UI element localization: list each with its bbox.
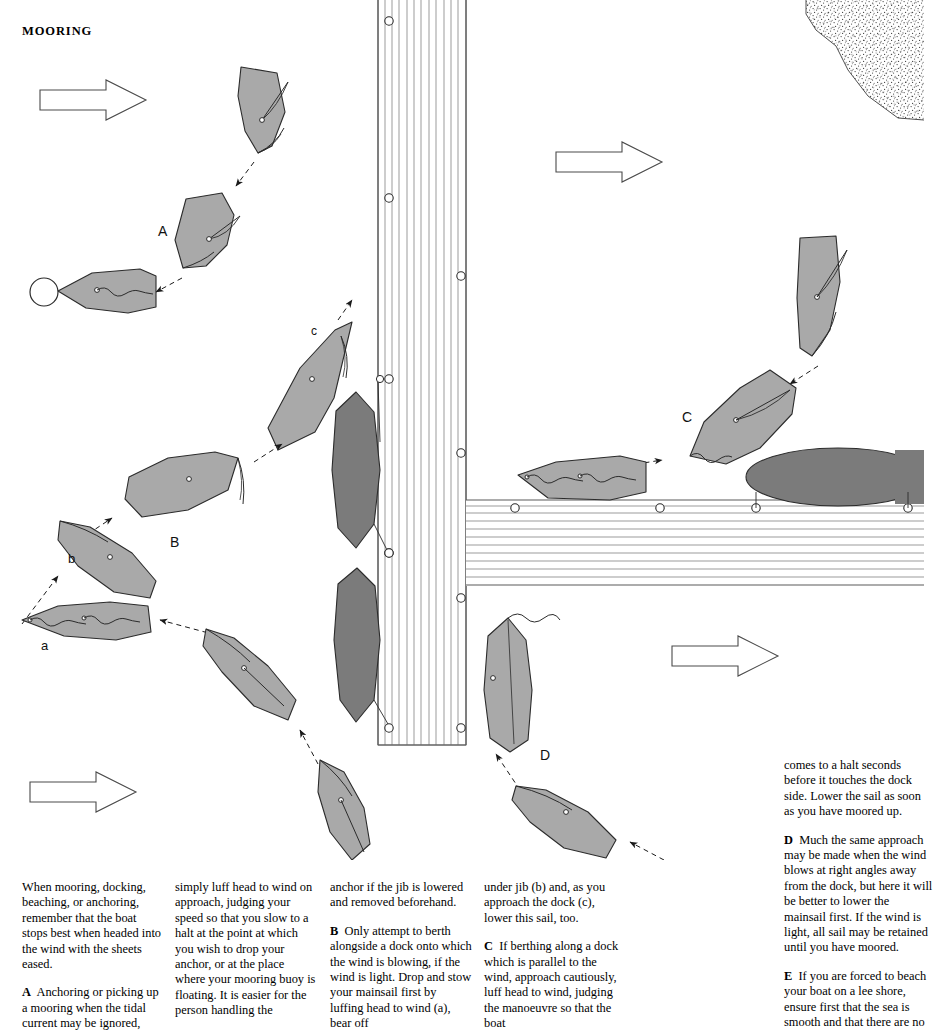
path-arrow [300,730,318,764]
path-arrow [338,300,352,320]
caption-column-4: under jib (b) and, as you approach the d… [484,880,624,1032]
caption-paragraph: A Anchoring or picking up a mooring when… [22,985,162,1031]
path-arrow [156,278,182,292]
caption-column-2: simply luff head to wind on approach, ju… [175,880,317,1019]
boat-c3-moored [518,456,646,500]
label-A: A [158,223,168,239]
label-D: D [540,747,550,763]
wind-arrow-bottom-right [672,636,778,676]
mooring-diagram: A B C D a b c [0,0,924,860]
mooring-buoy [30,278,58,306]
caption-paragraph: anchor if the jib is lowered and removed… [330,880,472,911]
path-arrow [630,842,664,860]
label-b: b [68,551,75,566]
shore-sand-bank [806,0,924,120]
caption-paragraph: under jib (b) and, as you approach the d… [484,880,624,926]
wind-arrow-top-left [40,80,146,120]
boat-moored-dark-quay [746,448,924,508]
boat-a2 [175,193,240,268]
label-C: C [682,409,692,425]
caption-paragraph: D Much the same approach may be made whe… [784,833,934,956]
path-arrow [236,162,254,186]
boat-a1 [238,67,288,153]
wind-arrow-bottom-left [30,772,136,812]
boat-c1 [797,236,847,356]
horizontal-dock [466,500,924,586]
caption-column-5: comes to a halt seconds before it touche… [784,758,934,1031]
caption-paragraph: B Only attempt to berth alongside a dock… [330,924,472,1032]
label-c: c [311,324,317,338]
path-arrow [496,754,520,790]
path-arrow [790,366,818,384]
caption-paragraph: C If berthing along a dock which is para… [484,939,624,1031]
label-a: a [41,638,49,653]
caption-paragraph: comes to a halt seconds before it touche… [784,758,934,820]
vertical-dock [378,0,466,745]
boat-b-a [22,602,151,640]
label-B: B [170,534,179,550]
caption-paragraph: simply luff head to wind on approach, ju… [175,880,317,1019]
boat-b-approach1 [203,629,296,720]
boat-a3-moored [30,269,156,313]
boat-c2 [690,370,796,464]
boat-b-mid [125,452,244,517]
wind-arrow-top-right [556,142,662,182]
caption-paragraph: When mooring, docking, beaching, or anch… [22,880,162,972]
caption-column-3: anchor if the jib is lowered and removed… [330,880,472,1032]
boat-d-approach [512,786,616,858]
caption-paragraph: E If you are forced to beach your boat o… [784,969,934,1031]
caption-column-1: When mooring, docking, beaching, or anch… [22,880,162,1032]
boat-b-approach2 [318,760,370,860]
path-arrow [254,444,282,462]
boat-d-moored [484,614,560,752]
